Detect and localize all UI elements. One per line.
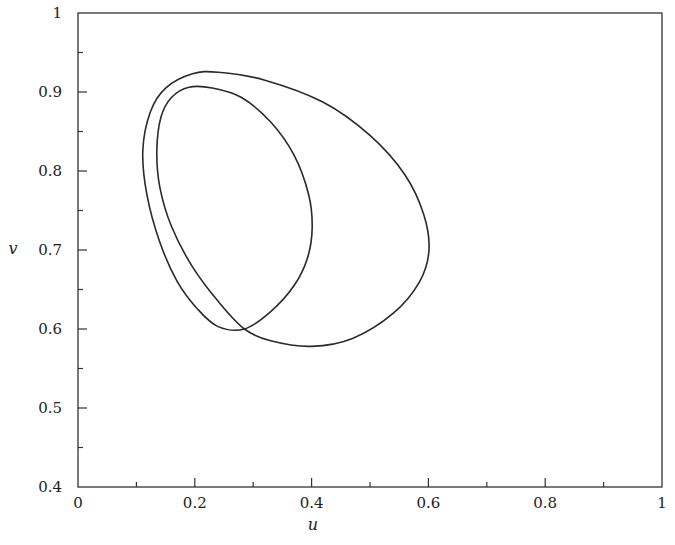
- y-axis-ticks: 0.40.50.60.70.80.91: [38, 4, 87, 496]
- x-tick-label: 0.6: [416, 494, 440, 512]
- series-group: [143, 72, 429, 347]
- y-tick-label: 0.9: [38, 83, 62, 101]
- x-tick-label: 0.2: [183, 494, 207, 512]
- y-tick-label: 1: [52, 4, 62, 22]
- y-tick-label: 0.8: [38, 162, 62, 180]
- x-tick-label: 1: [657, 494, 667, 512]
- y-axis-label: v: [8, 239, 17, 258]
- y-tick-label: 0.6: [38, 320, 62, 338]
- phase-portrait-chart: 00.20.40.60.81 0.40.50.60.70.80.91 u v: [0, 0, 675, 545]
- x-axis-label: u: [308, 515, 318, 534]
- series-line-trajectory: [143, 72, 429, 347]
- x-axis-ticks: 00.20.40.60.81: [73, 478, 667, 512]
- x-tick-label: 0.8: [533, 494, 557, 512]
- y-tick-label: 0.5: [38, 399, 62, 417]
- x-tick-label: 0.4: [300, 494, 324, 512]
- y-tick-label: 0.4: [38, 478, 62, 496]
- y-tick-label: 0.7: [38, 241, 62, 259]
- plot-frame: [78, 13, 662, 487]
- x-tick-label: 0: [73, 494, 83, 512]
